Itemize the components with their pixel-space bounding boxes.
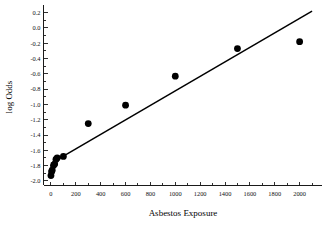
x-tick-label: 400 <box>96 190 106 197</box>
x-tick-label: 1000 <box>169 190 182 197</box>
x-tick-label: 1400 <box>219 190 232 197</box>
chart-container: 0200400600800100012001400160018002000 0.… <box>0 0 328 229</box>
x-tick-marks <box>51 182 312 186</box>
x-tick-label: 800 <box>146 190 156 197</box>
regression-line <box>51 11 312 163</box>
y-tick-label: -1.0 <box>30 101 40 108</box>
y-tick-label: 0.2 <box>33 9 41 16</box>
y-tick-marks <box>44 13 48 181</box>
x-tick-label: 1600 <box>243 190 256 197</box>
x-tick-label: 600 <box>121 190 131 197</box>
data-point <box>54 155 61 162</box>
x-tick-label: 1200 <box>194 190 207 197</box>
x-axis-title: Asbestos Exposure <box>149 208 218 218</box>
axes-group <box>44 5 323 186</box>
data-points <box>48 38 303 179</box>
y-tick-label: -1.4 <box>30 131 41 138</box>
y-tick-label: -0.2 <box>30 40 40 47</box>
data-point <box>234 45 241 52</box>
data-point <box>85 120 92 127</box>
y-tick-label: -2.0 <box>30 177 40 184</box>
y-axis-title: log Odds <box>4 80 14 113</box>
y-tick-label: -0.6 <box>30 70 40 77</box>
data-point <box>60 153 67 160</box>
y-tick-label: -1.8 <box>30 162 40 169</box>
x-tick-label: 2000 <box>293 190 306 197</box>
fit-line <box>51 11 312 163</box>
x-tick-label: 1800 <box>268 190 281 197</box>
y-tick-label: -0.4 <box>30 55 41 62</box>
x-tick-label: 200 <box>71 190 81 197</box>
y-tick-label: -0.8 <box>30 85 40 92</box>
y-tick-label: -1.2 <box>30 116 40 123</box>
x-tick-label: 0 <box>49 190 52 197</box>
data-point <box>172 73 179 80</box>
y-tick-label: -1.6 <box>30 147 40 154</box>
scatter-plot: 0200400600800100012001400160018002000 0.… <box>0 0 328 229</box>
x-tick-labels: 0200400600800100012001400160018002000 <box>49 190 306 197</box>
y-tick-label: 0.0 <box>33 24 41 31</box>
data-point <box>296 38 303 45</box>
y-tick-labels: 0.20.0-0.2-0.4-0.6-0.8-1.0-1.2-1.4-1.6-1… <box>30 9 41 184</box>
data-point <box>122 102 129 109</box>
